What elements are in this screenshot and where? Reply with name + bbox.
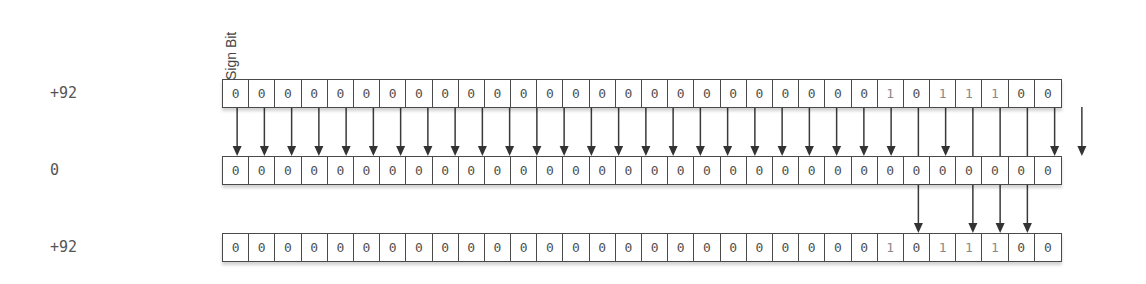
arrow-head (941, 146, 950, 156)
bit-cell: 0 (223, 234, 249, 261)
bit-cell: 0 (249, 234, 275, 261)
bit-cell: 0 (1009, 234, 1035, 261)
arrow-head (423, 146, 432, 156)
bit-cell: 1 (956, 80, 982, 107)
bit-cell: 0 (825, 157, 851, 184)
bit-cell: 0 (1009, 157, 1035, 184)
bit-cell: 1 (956, 234, 982, 261)
bit-cell: 0 (852, 234, 878, 261)
bit-cell: 0 (956, 157, 982, 184)
bit-cell: 0 (328, 157, 354, 184)
bit-cell: 0 (537, 234, 563, 261)
arrow-head (478, 146, 487, 156)
bit-cell: 0 (747, 80, 773, 107)
register-zero: 00000000000000000000000000000000 (222, 156, 1062, 185)
bit-cell: 0 (616, 234, 642, 261)
bit-cell: 1 (878, 234, 904, 261)
bit-cell: 0 (537, 157, 563, 184)
bit-cell: 0 (668, 234, 694, 261)
bit-cell: 0 (537, 80, 563, 107)
bit-cell: 0 (459, 80, 485, 107)
bit-cell: 0 (406, 80, 432, 107)
register-input: 00000000000000000000000001011100 (222, 79, 1062, 108)
bit-cell: 1 (878, 80, 904, 107)
arrow-head (1023, 223, 1032, 233)
bit-cell: 0 (930, 157, 956, 184)
bit-cell: 0 (433, 80, 459, 107)
bit-cell: 0 (563, 80, 589, 107)
bit-cell: 1 (982, 80, 1008, 107)
bit-cell: 0 (1009, 80, 1035, 107)
bit-cell: 0 (878, 157, 904, 184)
bit-cell: 0 (721, 234, 747, 261)
arrow-head (314, 146, 323, 156)
bit-cell: 0 (590, 157, 616, 184)
bit-cell: 0 (982, 157, 1008, 184)
arrow-head (1077, 146, 1086, 156)
arrow-head (369, 146, 378, 156)
arrow-head (750, 146, 759, 156)
arrow-head (641, 146, 650, 156)
bit-cell: 0 (302, 234, 328, 261)
bit-cell: 0 (852, 157, 878, 184)
bit-cell: 0 (354, 80, 380, 107)
bit-cell: 0 (380, 80, 406, 107)
bit-cell: 0 (590, 234, 616, 261)
bit-cell: 0 (799, 157, 825, 184)
bit-cell: 0 (354, 157, 380, 184)
bit-cell: 0 (249, 80, 275, 107)
bit-cell: 0 (1035, 234, 1061, 261)
bit-cell: 0 (459, 157, 485, 184)
bit-cell: 0 (694, 157, 720, 184)
arrow-head (696, 146, 705, 156)
bit-cell: 0 (747, 157, 773, 184)
bit-cell: 0 (223, 80, 249, 107)
bit-cell: 0 (590, 80, 616, 107)
bit-cell: 0 (773, 234, 799, 261)
arrow-head (342, 146, 351, 156)
bit-cell: 0 (747, 234, 773, 261)
bit-cell: 0 (406, 234, 432, 261)
arrow-head (396, 146, 405, 156)
arrow-head (233, 146, 242, 156)
bit-cell: 0 (694, 234, 720, 261)
bit-cell: 0 (694, 80, 720, 107)
bit-cell: 0 (825, 234, 851, 261)
arrow-head (287, 146, 296, 156)
arrow-head (532, 146, 541, 156)
bit-cell: 0 (616, 157, 642, 184)
bit-cell: 0 (1035, 80, 1061, 107)
bit-cell: 0 (668, 80, 694, 107)
arrow-head (505, 146, 514, 156)
arrow-head (451, 146, 460, 156)
bit-cell: 0 (459, 234, 485, 261)
bit-cell: 0 (485, 234, 511, 261)
bit-cell: 0 (1035, 157, 1061, 184)
arrow-head (832, 146, 841, 156)
bit-cell: 0 (799, 234, 825, 261)
bit-cell: 0 (380, 157, 406, 184)
bit-cell: 0 (275, 234, 301, 261)
bit-cell: 0 (642, 80, 668, 107)
bit-cell: 0 (328, 80, 354, 107)
arrow-head (859, 146, 868, 156)
bit-cell: 0 (904, 157, 930, 184)
arrow-head (968, 223, 977, 233)
bit-cell: 0 (249, 157, 275, 184)
arrow-head (914, 223, 923, 233)
bit-cell: 0 (904, 234, 930, 261)
arrow-head (614, 146, 623, 156)
bit-cell: 0 (563, 157, 589, 184)
bit-cell: 0 (302, 157, 328, 184)
bit-cell: 0 (485, 157, 511, 184)
bit-cell: 0 (721, 157, 747, 184)
bit-cell: 0 (773, 157, 799, 184)
arrow-head (887, 146, 896, 156)
bit-cell: 0 (668, 157, 694, 184)
bit-cell: 0 (511, 80, 537, 107)
bit-cell: 1 (930, 234, 956, 261)
bit-cell: 1 (930, 80, 956, 107)
arrow-head (778, 146, 787, 156)
bit-cell: 0 (616, 80, 642, 107)
bit-cell: 0 (825, 80, 851, 107)
